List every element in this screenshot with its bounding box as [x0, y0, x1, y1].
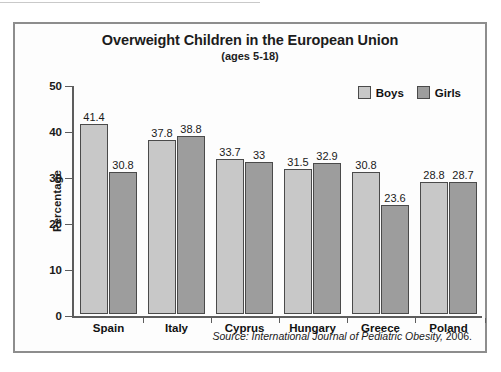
y-tick-label-10: 10: [49, 264, 62, 276]
y-tick-20: [65, 224, 72, 225]
chart-frame: Overweight Children in the European Unio…: [13, 22, 487, 353]
bar-spain-girls: 30.8: [109, 172, 137, 314]
bar-cyprus-boys: 33.7: [216, 159, 244, 314]
bar-group-greece: 30.823.6: [352, 172, 409, 314]
y-tick-label-20: 20: [49, 218, 62, 230]
source-note: Source: International Journal of Pediatr…: [212, 330, 472, 342]
bar-value-hungary-boys: 31.5: [287, 156, 308, 168]
source-year: 2006.: [443, 330, 472, 342]
y-tick-50: [65, 86, 72, 87]
bar-poland-boys: 28.8: [420, 182, 448, 314]
bar-value-greece-girls: 23.6: [384, 192, 405, 204]
bar-hungary-girls: 32.9: [313, 163, 341, 314]
bar-value-spain-girls: 30.8: [112, 159, 133, 171]
x-axis-label-italy: Italy: [138, 322, 215, 334]
bar-group-spain: 41.430.8: [80, 124, 137, 314]
source-text: Source: International Journal of Pediatr…: [212, 330, 442, 342]
bar-group-poland: 28.828.7: [420, 182, 477, 314]
bar-poland-girls: 28.7: [449, 182, 477, 314]
bar-group-italy: 37.838.8: [148, 136, 205, 314]
y-tick-30: [65, 178, 72, 179]
scan-artifact-line: [0, 2, 260, 3]
x-axis-label-spain: Spain: [70, 322, 147, 334]
bar-value-poland-girls: 28.7: [452, 169, 473, 181]
bar-hungary-boys: 31.5: [284, 169, 312, 314]
bar-group-cyprus: 33.733: [216, 159, 273, 314]
x-axis-line: [72, 316, 482, 318]
y-tick-label-40: 40: [49, 126, 62, 138]
y-tick-label-50: 50: [49, 80, 62, 92]
bar-value-cyprus-girls: 33: [253, 149, 265, 161]
bar-italy-girls: 38.8: [177, 136, 205, 314]
plot-area: Percentage 01020304050 41.430.8Spain37.8…: [72, 86, 480, 316]
bar-spain-boys: 41.4: [80, 124, 108, 314]
bar-value-poland-boys: 28.8: [423, 169, 444, 181]
bar-value-italy-girls: 38.8: [180, 123, 201, 135]
bar-greece-boys: 30.8: [352, 172, 380, 314]
y-axis-line: [72, 86, 74, 318]
bar-greece-girls: 23.6: [381, 205, 409, 314]
y-tick-10: [65, 270, 72, 271]
bar-italy-boys: 37.8: [148, 140, 176, 314]
bar-value-italy-boys: 37.8: [151, 127, 172, 139]
bar-group-hungary: 31.532.9: [284, 163, 341, 314]
y-tick-label-0: 0: [56, 310, 62, 322]
bar-cyprus-girls: 33: [245, 162, 273, 314]
y-tick-label-30: 30: [49, 172, 62, 184]
bar-value-hungary-girls: 32.9: [316, 150, 337, 162]
y-tick-0: [65, 316, 72, 317]
x-tick-end: [485, 318, 486, 323]
bar-value-spain-boys: 41.4: [83, 111, 104, 123]
y-tick-40: [65, 132, 72, 133]
bar-value-greece-boys: 30.8: [355, 159, 376, 171]
bar-value-cyprus-boys: 33.7: [219, 146, 240, 158]
chart-title: Overweight Children in the European Unio…: [15, 32, 485, 49]
title-block: Overweight Children in the European Unio…: [15, 32, 485, 63]
chart-subtitle: (ages 5-18): [15, 49, 485, 63]
